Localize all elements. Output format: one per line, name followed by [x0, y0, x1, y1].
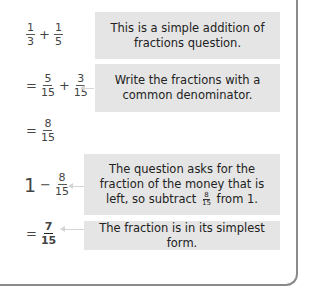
one: 1: [24, 174, 36, 196]
equals-sign: =: [26, 123, 37, 138]
explanation-step-4: The question asks for the fraction of th…: [84, 154, 280, 215]
equals-sign: =: [26, 226, 37, 241]
expression-step-1: 13 + 15: [24, 22, 65, 47]
equals-sign: =: [26, 78, 37, 93]
fraction: 815: [55, 172, 69, 197]
answer-fraction: 715: [41, 221, 56, 246]
explanation-step-5: The fraction is in its simplest form.: [84, 221, 280, 250]
fraction: 515: [41, 73, 55, 98]
plus-sign: +: [39, 27, 50, 42]
fraction: 815: [41, 118, 55, 143]
arrow-icon: [81, 88, 94, 89]
expression-step-4: 1 − 815: [24, 172, 71, 197]
minus-sign: −: [40, 177, 51, 192]
inline-fraction: 815: [202, 192, 211, 207]
arrow-icon: [69, 186, 84, 187]
fraction: 15: [54, 22, 63, 47]
explanation-step-2: Write the fractions with a common denomi…: [95, 64, 280, 112]
arrow-icon: [61, 229, 84, 230]
plus-sign: +: [59, 78, 70, 93]
explanation-step-1: This is a simple addition of fractions q…: [95, 12, 280, 59]
expression-step-5: = 715: [24, 221, 58, 246]
expression-step-3: = 815: [24, 118, 57, 143]
fraction: 13: [26, 22, 35, 47]
